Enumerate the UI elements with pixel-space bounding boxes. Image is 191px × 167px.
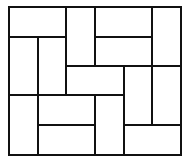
domino-tile-vertical	[152, 66, 181, 125]
domino-tile-horizontal	[95, 37, 152, 66]
domino-tile-vertical	[152, 7, 181, 66]
domino-tile-horizontal	[66, 66, 124, 95]
domino-tile-horizontal	[95, 7, 152, 37]
domino-tile-vertical	[95, 95, 124, 155]
domino-tiling-diagram	[0, 0, 191, 167]
domino-tile-horizontal	[9, 7, 66, 37]
domino-tile-horizontal	[38, 125, 95, 155]
domino-tile-horizontal	[124, 125, 181, 155]
domino-tile-vertical	[38, 37, 66, 95]
domino-tile-vertical	[66, 7, 95, 66]
tiles-group	[9, 7, 181, 155]
domino-tile-vertical	[9, 37, 38, 95]
domino-tile-horizontal	[38, 95, 95, 125]
domino-tile-vertical	[9, 95, 38, 155]
domino-tile-vertical	[124, 66, 152, 125]
